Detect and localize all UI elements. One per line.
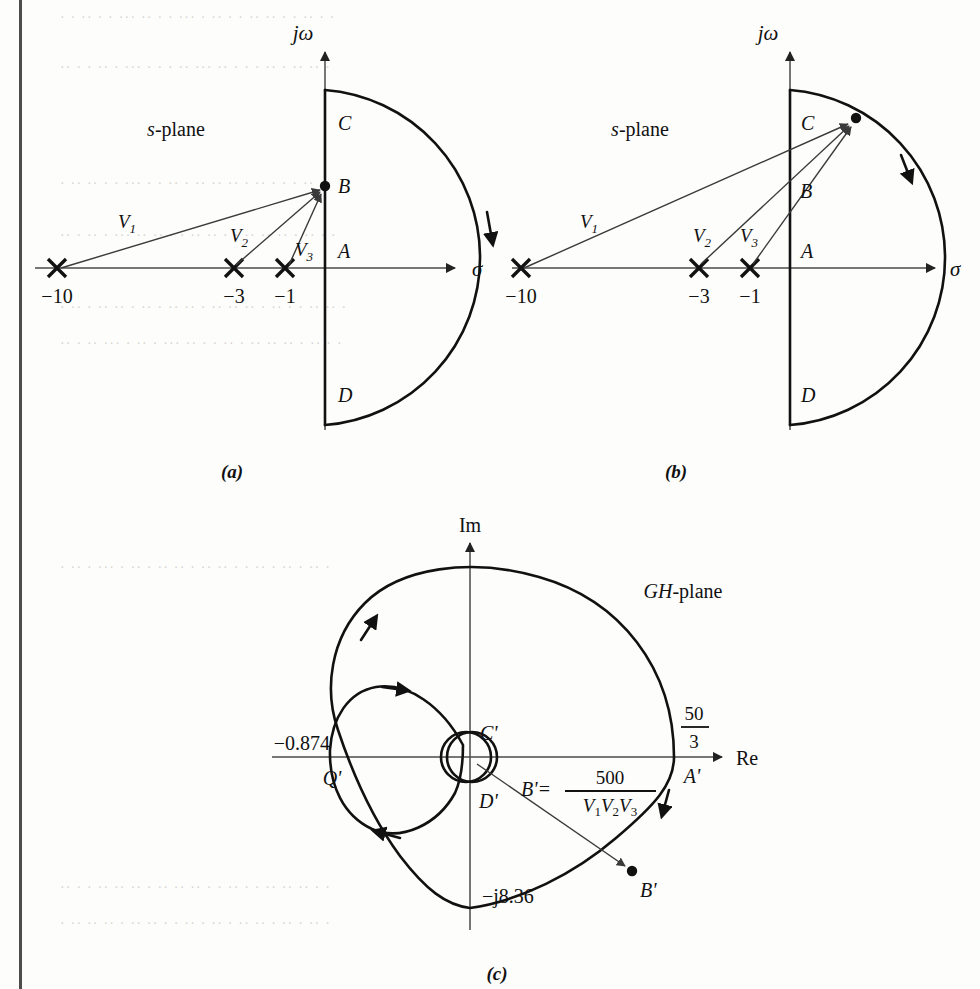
- panel-c-label-Aprime: A': [682, 765, 701, 787]
- panel-b-label-B: B: [800, 180, 812, 202]
- panel-c-point-Bprime: [627, 866, 637, 876]
- panel-c-formula-denominator: V1V2V3: [583, 795, 637, 819]
- panel-a-vector-label-V2: V2: [230, 225, 249, 250]
- panel-a-real-axis-label: σ: [472, 257, 484, 281]
- panel-b-label-D: D: [800, 384, 816, 406]
- panel-c-label-Qprime: Q': [323, 767, 342, 789]
- panel-a-imaginary-axis-label: jω: [290, 21, 314, 45]
- panel-a-plane-label: s-plane: [147, 118, 205, 141]
- panel-b-label-A: A: [799, 240, 814, 262]
- panel-c-caption: (c): [486, 963, 507, 985]
- panel-b-vector-label-V2: V2: [693, 225, 712, 250]
- panel-c-real-axis-label: Re: [736, 747, 758, 769]
- panel-c-outer-loop-arrow-right: [663, 790, 669, 812]
- panel-c-outer-loop-arrow-upper: [361, 620, 374, 640]
- panel-a-test-point-B: [320, 181, 330, 191]
- panel-b-label-C: C: [801, 112, 815, 134]
- panel-b-pole-label-minus10: −10: [505, 285, 536, 307]
- panel-b-vector-V2: [701, 126, 849, 264]
- panel-c-label-negative-real-crossing: −0.874: [274, 732, 330, 754]
- panel-c-outer-loop: [331, 567, 674, 908]
- panel-a-pole-label-minus1: −1: [274, 285, 295, 307]
- panel-a-label-C: C: [338, 112, 352, 134]
- figure-container: · · ·· · · ··· ·· · · ··· · ·· · · ·· ··…: [0, 0, 980, 989]
- panel-c-label-positive-real-crossing-numerator: 50: [685, 703, 704, 724]
- panel-c-label-negative-imag-crossing: −j8.36: [482, 885, 534, 908]
- panel-c-imaginary-axis-label: Im: [459, 514, 482, 536]
- panel-b-direction-arrow: [901, 155, 910, 178]
- panel-c: Im Re GH-plane −0.874 Q' 50 3 A' C' D' −…: [272, 514, 758, 985]
- panel-b-pole-label-minus1: −1: [739, 285, 760, 307]
- panel-c-formula-Bprime: B'= 500 V1V2V3: [521, 767, 656, 819]
- panel-a-label-B: B: [338, 175, 350, 197]
- panel-c-formula-numerator: 500: [596, 767, 625, 788]
- figure-drawing: jω σ s-plane C B A D V1 V2 V3 −10 −3 −1: [0, 0, 980, 989]
- panel-c-label-positive-real-crossing-denominator: 3: [689, 731, 699, 752]
- panel-a-vector-label-V1: V1: [118, 211, 136, 236]
- panel-b-test-point-B: [851, 113, 861, 123]
- panel-b: jω σ s-plane C B A D V1 V2 V3 −10 −3 −1 …: [505, 21, 962, 483]
- panel-b-plane-label: s-plane: [611, 118, 669, 141]
- panel-c-label-Bprime-point: B': [640, 879, 657, 901]
- panel-b-caption: (b): [665, 461, 687, 483]
- panel-a-label-A: A: [336, 240, 351, 262]
- panel-c-formula-lhs: B'=: [521, 778, 551, 800]
- panel-a-label-D: D: [337, 384, 353, 406]
- panel-a-caption: (a): [221, 461, 243, 483]
- panel-a-direction-arrow: [487, 212, 492, 240]
- panel-c-label-Dprime: D': [478, 790, 498, 812]
- panel-a-vector-V1: [61, 190, 320, 268]
- panel-b-pole-label-minus3: −3: [688, 285, 709, 307]
- panel-b-imaginary-axis-label: jω: [755, 21, 779, 45]
- panel-a-vector-label-V3: V3: [295, 239, 314, 264]
- panel-a-pole-label-minus10: −10: [41, 285, 72, 307]
- panel-a: jω σ s-plane C B A D V1 V2 V3 −10 −3 −1: [35, 21, 492, 483]
- panel-a-pole-label-minus3: −3: [223, 285, 244, 307]
- panel-b-vector-label-V3: V3: [740, 225, 759, 250]
- panel-c-label-Cprime: C': [480, 722, 498, 744]
- panel-b-vector-label-V1: V1: [580, 211, 598, 236]
- panel-b-contour-semicircle: [790, 90, 945, 425]
- panel-c-plane-label: GH-plane: [644, 580, 723, 603]
- panel-b-real-axis-label: σ: [950, 257, 962, 281]
